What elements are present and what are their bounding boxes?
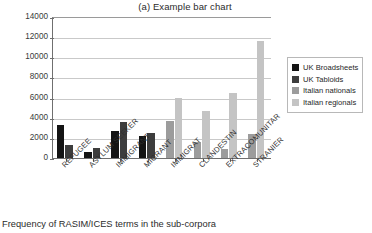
y-tick-label: 12000 [3, 32, 48, 41]
y-tick-mark [50, 159, 54, 160]
legend-label: Italian regionals [303, 98, 356, 107]
legend-label: UK Broadsheets [303, 63, 358, 72]
y-tick-mark [50, 18, 54, 19]
bar [229, 93, 237, 159]
y-tick-label: 6000 [3, 93, 48, 102]
y-tick-label: 10000 [3, 52, 48, 61]
legend-item[interactable]: Italian regionals [292, 97, 358, 109]
legend-item[interactable]: UK Tabloids [292, 74, 358, 86]
legend-label: Italian nationals [303, 86, 356, 95]
legend-item[interactable]: Italian nationals [292, 85, 358, 97]
legend-swatch-icon [292, 99, 299, 106]
legend-item[interactable]: UK Broadsheets [292, 62, 358, 74]
y-tick-mark [50, 99, 54, 100]
legend-label: UK Tabloids [303, 75, 343, 84]
bar [57, 125, 65, 158]
y-tick-mark [50, 38, 54, 39]
gridline [53, 58, 271, 59]
figure-caption: Frequency of RASIM/ICES terms in the sub… [2, 219, 216, 229]
y-tick-mark [50, 78, 54, 79]
y-tick-label: 4000 [3, 113, 48, 122]
y-tick-mark [50, 139, 54, 140]
gridline [53, 78, 271, 79]
y-tick-mark [50, 119, 54, 120]
y-tick-label: 14000 [3, 12, 48, 21]
gridline [53, 119, 271, 120]
bar [84, 152, 92, 158]
gridline [53, 38, 271, 39]
y-tick-label: 8000 [3, 72, 48, 81]
y-tick-mark [50, 58, 54, 59]
bar [175, 98, 183, 158]
gridline [53, 99, 271, 100]
legend-swatch-icon [292, 87, 299, 94]
figure-container: (a) Example bar chart Frequency of lemma… [0, 0, 372, 233]
chart-title: (a) Example bar chart [95, 1, 275, 12]
legend-swatch-icon [292, 76, 299, 83]
y-tick-label: 0 [3, 153, 48, 162]
legend-swatch-icon [292, 64, 299, 71]
y-tick-label: 2000 [3, 133, 48, 142]
legend: UK BroadsheetsUK TabloidsItalian nationa… [287, 57, 363, 113]
